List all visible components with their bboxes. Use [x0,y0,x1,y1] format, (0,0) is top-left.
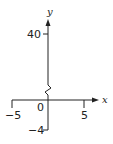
y-axis-label: y [46,6,53,17]
x-axis-label: x [102,94,108,105]
y-tick-label-neg4: −4 [28,124,44,137]
y-axis-break [45,83,51,100]
x-tick-label-neg5: −5 [5,109,21,122]
axes-diagram: y x 40 −4 −5 5 0 [0,0,113,144]
y-axis-arrow-icon [46,19,51,26]
y-tick-label-40: 40 [27,28,41,41]
origin-label: 0 [37,101,44,114]
x-tick-label-5: 5 [81,109,88,122]
x-axis-arrow-icon [92,98,99,103]
